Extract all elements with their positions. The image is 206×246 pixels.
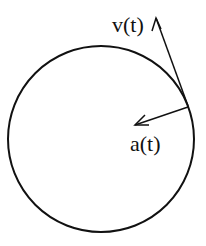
velocity-label: v(t)	[112, 14, 144, 36]
velocity-arrow	[152, 18, 188, 106]
circular-motion-diagram	[0, 0, 206, 246]
acceleration-label: a(t)	[130, 133, 161, 155]
circle-path	[8, 46, 194, 232]
acceleration-arrow	[135, 107, 188, 125]
